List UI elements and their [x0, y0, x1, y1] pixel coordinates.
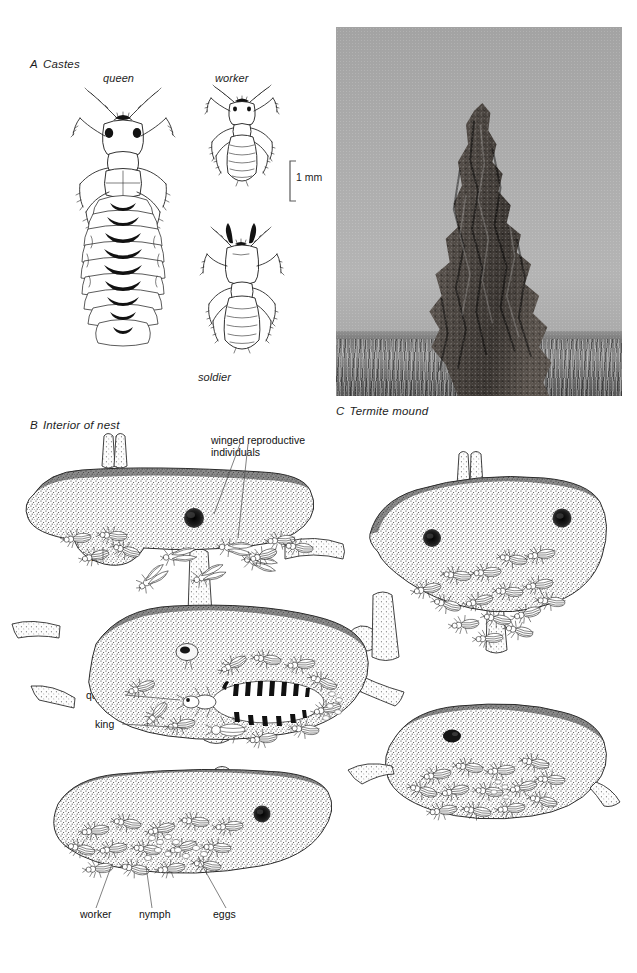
worker-illustration	[196, 84, 288, 194]
scale-bar-label: 1 mm	[296, 171, 322, 183]
panel-c-title: Termite mound	[350, 405, 429, 417]
queen-abdomen	[81, 196, 165, 347]
panel-a-letter: A	[30, 58, 38, 70]
panel-a-title: Castes	[43, 58, 80, 70]
nest-chamber-royal	[89, 605, 369, 750]
nest-chamber-bottom-right	[348, 704, 620, 822]
nest-interior-illustration	[0, 430, 637, 930]
figure-plate: ACastes queen worker soldier	[0, 0, 637, 973]
panel-c-caption: CTermite mound	[336, 405, 428, 417]
panel-c-letter: C	[336, 405, 345, 417]
caste-label-worker: worker	[215, 72, 249, 84]
soldier-illustration	[194, 222, 290, 368]
nest-chamber-top-left	[26, 444, 314, 597]
nest-chamber-bottom-left	[54, 769, 332, 908]
caste-label-soldier: soldier	[198, 371, 231, 383]
panel-a-caption: ACastes	[30, 58, 80, 70]
termite-mound-photograph	[336, 27, 622, 396]
caste-label-queen: queen	[103, 72, 134, 84]
photo-film-grain	[336, 27, 622, 396]
queen-illustration	[58, 84, 188, 374]
